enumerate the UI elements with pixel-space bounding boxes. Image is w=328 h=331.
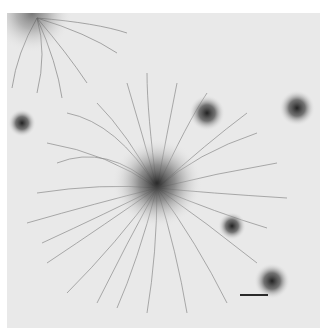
scale-bar: [240, 294, 268, 296]
dna-strands: [7, 13, 320, 328]
micrograph-image: [7, 13, 320, 328]
